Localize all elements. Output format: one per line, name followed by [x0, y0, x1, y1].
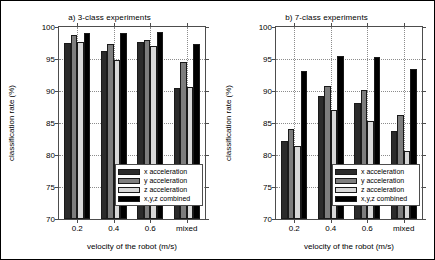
x-tick-label: 0.4 [325, 224, 336, 233]
legend-item-label: z acceleration [361, 186, 404, 194]
legend-item: x acceleration [335, 167, 416, 176]
panel-a-title: a) 3-class experiments [1, 13, 218, 22]
y-tick-mark [272, 91, 276, 92]
x-tick-mark [404, 219, 405, 223]
legend-swatch-icon [335, 187, 357, 193]
x-tick-mark [294, 23, 295, 27]
y-tick-mark [422, 123, 426, 124]
bar-x-y-z-combined-0.2 [301, 71, 307, 219]
y-tick-label: 90 [263, 87, 272, 96]
legend-item: x,y,z combined [335, 194, 416, 203]
y-tick-mark [55, 187, 59, 188]
y-tick-label: 70 [263, 215, 272, 224]
x-tick-mark [294, 219, 295, 223]
x-tick-mark [77, 219, 78, 223]
y-tick-label: 85 [263, 119, 272, 128]
x-tick-mark [367, 219, 368, 223]
y-tick-mark [272, 123, 276, 124]
y-tick-label: 90 [46, 87, 55, 96]
y-tick-mark [55, 219, 59, 220]
legend-item: z acceleration [335, 185, 416, 194]
x-tick-mark [114, 219, 115, 223]
legend-item: x acceleration [118, 167, 199, 176]
y-tick-mark [422, 187, 426, 188]
y-tick-mark [272, 27, 276, 28]
legend-item-label: y acceleration [144, 177, 187, 185]
legend-item: z acceleration [118, 185, 199, 194]
legend-item-label: x acceleration [361, 168, 404, 176]
legend-swatch-icon [118, 169, 140, 175]
legend-item-label: z acceleration [144, 186, 187, 194]
y-tick-mark [422, 27, 426, 28]
y-tick-label: 95 [46, 55, 55, 64]
x-tick-mark [77, 23, 78, 27]
y-tick-mark [422, 155, 426, 156]
legend-swatch-icon [335, 178, 357, 184]
figure-container: a) 3-class experiments classification ra… [0, 0, 435, 260]
y-tick-label: 80 [263, 151, 272, 160]
x-tick-mark [150, 23, 151, 27]
y-tick-label: 75 [263, 183, 272, 192]
y-tick-mark [205, 91, 209, 92]
legend-item-label: y acceleration [361, 177, 404, 185]
x-tick-mark [331, 219, 332, 223]
legend-swatch-icon [118, 178, 140, 184]
y-tick-mark [205, 155, 209, 156]
panel-a-legend: x accelerationy accelerationz accelerati… [115, 164, 203, 206]
legend-swatch-icon [118, 187, 140, 193]
x-tick-label: 0.6 [362, 224, 373, 233]
panel-a-y-axis-title: classification rate (%) [7, 85, 16, 161]
x-tick-label: mixed [176, 224, 197, 233]
x-tick-mark [331, 23, 332, 27]
y-tick-mark [205, 123, 209, 124]
x-tick-label: 0.2 [289, 224, 300, 233]
x-tick-label: 0.2 [72, 224, 83, 233]
y-tick-label: 70 [46, 215, 55, 224]
x-tick-mark [114, 23, 115, 27]
y-tick-mark [205, 187, 209, 188]
x-tick-mark [187, 23, 188, 27]
legend-swatch-icon [335, 196, 357, 202]
bar-x-y-z-combined-0.2 [84, 33, 90, 219]
legend-item-label: x,y,z combined [361, 195, 407, 203]
y-tick-mark [422, 91, 426, 92]
y-tick-label: 85 [46, 119, 55, 128]
panel-b-y-axis-title: classification rate (%) [224, 85, 233, 161]
y-tick-label: 75 [46, 183, 55, 192]
chart-panel-a: a) 3-class experiments classification ra… [1, 1, 218, 260]
panel-b-title: b) 7-class experiments [218, 13, 435, 22]
x-tick-label: 0.4 [108, 224, 119, 233]
gridline-horizontal [276, 91, 422, 92]
y-tick-label: 95 [263, 55, 272, 64]
y-tick-mark [205, 27, 209, 28]
panel-b-legend: x accelerationy accelerationz accelerati… [332, 164, 420, 206]
panel-a-x-axis-title: velocity of the robot (m/s) [58, 242, 206, 251]
legend-item: y acceleration [335, 176, 416, 185]
chart-panel-b: b) 7-class experiments classification ra… [218, 1, 435, 260]
y-tick-label: 100 [42, 23, 55, 32]
x-tick-label: mixed [393, 224, 414, 233]
legend-swatch-icon [118, 196, 140, 202]
y-tick-label: 80 [46, 151, 55, 160]
legend-item-label: x acceleration [144, 168, 187, 176]
y-tick-label: 100 [259, 23, 272, 32]
legend-item: x,y,z combined [118, 194, 199, 203]
y-tick-mark [55, 27, 59, 28]
legend-item: y acceleration [118, 176, 199, 185]
x-tick-mark [187, 219, 188, 223]
y-tick-mark [272, 59, 276, 60]
y-tick-mark [272, 219, 276, 220]
y-tick-mark [55, 123, 59, 124]
x-tick-label: 0.6 [145, 224, 156, 233]
y-tick-mark [272, 187, 276, 188]
legend-item-label: x,y,z combined [144, 195, 190, 203]
x-tick-mark [404, 23, 405, 27]
gridline-horizontal [276, 59, 422, 60]
y-tick-mark [205, 59, 209, 60]
y-tick-mark [272, 155, 276, 156]
y-tick-mark [205, 219, 209, 220]
y-tick-mark [55, 59, 59, 60]
panel-b-x-axis-title: velocity of the robot (m/s) [275, 242, 423, 251]
y-tick-mark [422, 219, 426, 220]
y-tick-mark [422, 59, 426, 60]
